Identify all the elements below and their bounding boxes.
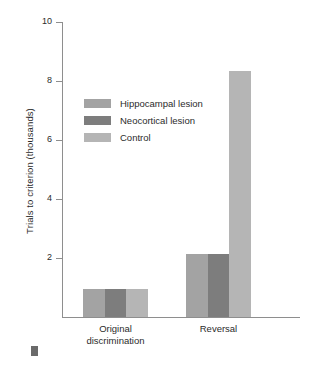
y-axis-tick-4 [56,199,63,200]
y-axis-tick-label-text: 2 [30,253,52,262]
bar-chart: Trials to criterion (thousands) 246810 O… [0,0,321,365]
bar-group-1 [83,22,148,317]
x-axis-label-1: Originaldiscrimination [56,323,176,347]
legend-label: Hippocampal lesion [120,98,203,109]
legend-swatch-icon [84,116,111,125]
x-axis-label-2: Reversal [159,323,279,335]
y-axis-tick-label-8: 8 [30,76,52,85]
plot-area [63,22,300,317]
chart-legend: Hippocampal lesionNeocortical lesionCont… [84,96,203,147]
y-axis-tick-label-text: 10 [30,17,52,26]
y-axis-title: Trials to criterion (thousands) [25,71,35,271]
legend-item-1: Hippocampal lesion [84,96,203,111]
y-axis-tick-6 [56,140,63,141]
legend-item-2: Neocortical lesion [84,113,203,128]
y-axis-tick-label-2: 2 [30,253,52,262]
bar-hippocampal-lesion-2 [186,254,208,317]
y-axis-tick-label-4: 4 [30,194,52,203]
legend-item-3: Control [84,130,203,145]
x-axis-line [62,317,300,318]
x-axis-label-line: Reversal [159,323,279,335]
y-axis-tick-2 [56,258,63,259]
bar-control-2 [229,71,251,317]
y-axis-tick-label-text: 8 [30,76,52,85]
y-axis-tick-10 [56,22,63,23]
x-axis-label-line: Original [56,323,176,335]
y-axis-tick-label-text: 6 [30,135,52,144]
legend-swatch-icon [84,99,111,108]
legend-swatch-icon [84,133,111,142]
y-axis-tick-label-text: 4 [30,194,52,203]
figure-bullet-icon [31,346,38,356]
y-axis-tick-8 [56,81,63,82]
y-axis-tick-label-6: 6 [30,135,52,144]
bar-neocortical-lesion-2 [208,254,230,317]
y-axis-tick-label-10: 10 [30,17,52,26]
bar-control-1 [126,289,148,317]
bar-group-2 [186,22,251,317]
legend-label: Control [120,132,151,143]
bar-neocortical-lesion-1 [105,289,127,317]
x-axis-label-line: discrimination [56,335,176,347]
bar-hippocampal-lesion-1 [83,289,105,317]
legend-label: Neocortical lesion [120,115,195,126]
